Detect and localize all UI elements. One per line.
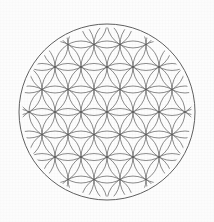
flower-of-life-figure: Flower of Life	[0, 0, 214, 222]
flower-of-life-svg: Flower of Life	[0, 0, 214, 222]
